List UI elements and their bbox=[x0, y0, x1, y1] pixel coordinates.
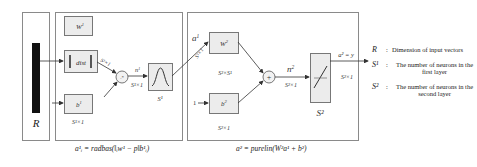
b2-to-sum-arrow bbox=[238, 81, 263, 103]
legend-item-s1: S¹ : The number of neurons in the first … bbox=[372, 61, 477, 76]
layer2-net-dim: S²×1 bbox=[285, 82, 297, 88]
layer2-transfer-label: S² bbox=[316, 108, 324, 118]
sum-symbol: + bbox=[267, 73, 272, 82]
output-dim: S²×1 bbox=[341, 74, 353, 80]
layer2-formula: a² = purelin(W²a¹ + b²) bbox=[236, 144, 307, 153]
legend-desc: The number of neurons in the second laye… bbox=[392, 83, 477, 98]
input-vector-bar bbox=[32, 43, 40, 113]
legend: R : Dimension of input vectors S¹ : The … bbox=[372, 46, 477, 105]
legend-symbol: R bbox=[372, 46, 386, 54]
layer2-weight-dim: S²×S¹ bbox=[218, 70, 232, 76]
layer1-formula: a¹ᵢ = radbas(‖ᵢw¹ − p‖b¹ᵢ) bbox=[75, 144, 149, 153]
dist-output-dim: S¹×1 bbox=[99, 57, 112, 68]
multiply-symbol: .* bbox=[120, 75, 124, 80]
layer2-bias-input: 1 bbox=[193, 99, 196, 106]
layer1-transfer-label: S¹ bbox=[157, 95, 162, 102]
w2-to-sum-arrow bbox=[238, 42, 263, 73]
legend-desc: Dimension of input vectors bbox=[392, 46, 477, 54]
legend-symbol: S² bbox=[372, 83, 386, 98]
legend-item-s2: S² : The number of neurons in the second… bbox=[372, 83, 477, 98]
a1-to-w2-arrow bbox=[172, 42, 208, 76]
layer2-bias-dim: S²×1 bbox=[218, 125, 230, 131]
legend-symbol: S¹ bbox=[372, 61, 386, 76]
output-label: a² = y bbox=[338, 51, 354, 58]
input-label: R bbox=[32, 117, 40, 129]
layer1-net-dim: S¹×1 bbox=[131, 82, 143, 88]
layer2-input-label: a1 bbox=[192, 33, 200, 44]
bias-to-multiply-arrow bbox=[104, 82, 117, 97]
layer1-net-label: n1 bbox=[135, 66, 140, 74]
layer2-net-label: n2 bbox=[287, 64, 295, 75]
layer1-dist-label: dist bbox=[76, 59, 87, 67]
legend-item-r: R : Dimension of input vectors bbox=[372, 46, 477, 54]
layer2-input-dim: S¹×1 bbox=[193, 47, 204, 60]
layer1-bias-dim: S¹×1 bbox=[72, 119, 84, 125]
legend-desc: The number of neurons in the first layer bbox=[392, 61, 477, 76]
